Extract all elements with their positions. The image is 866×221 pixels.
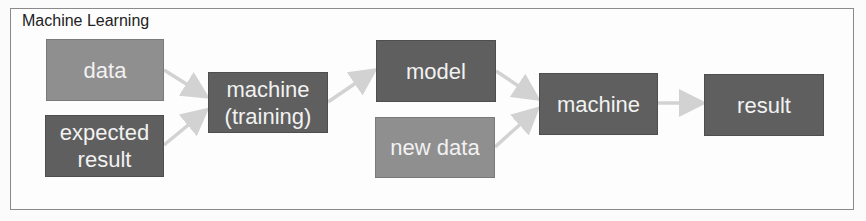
arrow-expected-to-training [164,112,204,145]
arrow-newdata-to-machine [495,111,535,147]
node-machine-label: machine [557,91,640,118]
node-machine: machine [539,73,658,135]
node-machine-training-label-line1: machine [226,76,309,103]
node-machine-training-label-line2: (training) [225,103,312,130]
node-new-data: new data [375,117,495,178]
node-result: result [704,74,824,136]
arrow-data-to-training [164,70,204,95]
node-data: data [46,39,164,101]
node-result-label: result [737,92,791,119]
arrow-training-to-model [328,72,372,102]
node-machine-training: machine (training) [208,72,328,133]
arrow-model-to-machine [496,71,535,97]
node-model-label: model [406,58,466,85]
node-model: model [376,40,496,102]
node-new-data-label: new data [390,134,479,161]
node-expected-label-line2: result [78,146,132,173]
node-expected-result: expected result [45,115,164,177]
node-data-label: data [84,57,127,84]
node-expected-label-line1: expected [60,119,149,146]
